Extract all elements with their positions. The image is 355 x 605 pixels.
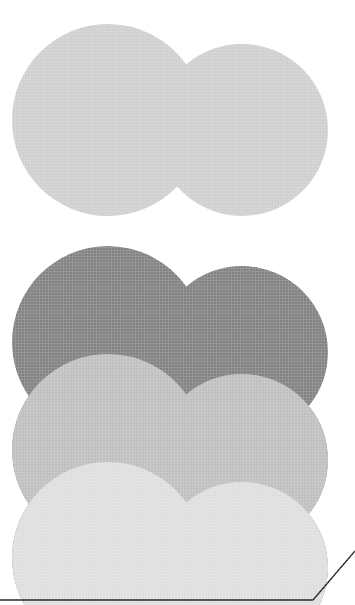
stacked-shape-group: [0, 0, 355, 605]
artboard: [0, 0, 355, 605]
artwork-canvas: [0, 0, 355, 605]
